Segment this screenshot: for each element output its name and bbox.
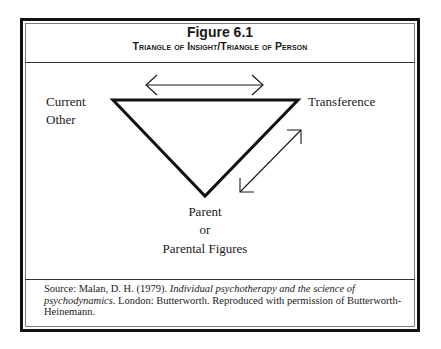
vertex-label-or: or — [145, 221, 265, 239]
source-divider — [25, 279, 415, 280]
source-prefix: Source: Malan, D. H. (1979). — [44, 283, 170, 294]
double-arrow-horizontal-icon — [146, 75, 263, 95]
vertex-label-parent: Parent — [145, 203, 265, 221]
inverted-triangle-shape — [113, 100, 298, 196]
vertex-label-other: Other — [46, 111, 76, 129]
source-citation: Source: Malan, D. H. (1979). Individual … — [44, 283, 404, 318]
double-arrow-diagonal-icon — [240, 130, 301, 192]
vertex-label-current: Current — [46, 93, 86, 111]
vertex-label-transference: Transference — [308, 93, 375, 111]
vertex-label-parental-figures: Parental Figures — [145, 240, 265, 258]
